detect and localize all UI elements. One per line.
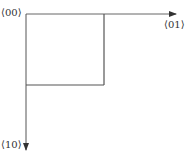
origin-label: ⟨00⟩ xyxy=(1,8,22,18)
y-axis-end-label: ⟨10⟩ xyxy=(1,140,22,150)
x-axis-end-label: ⟨01⟩ xyxy=(164,20,185,30)
